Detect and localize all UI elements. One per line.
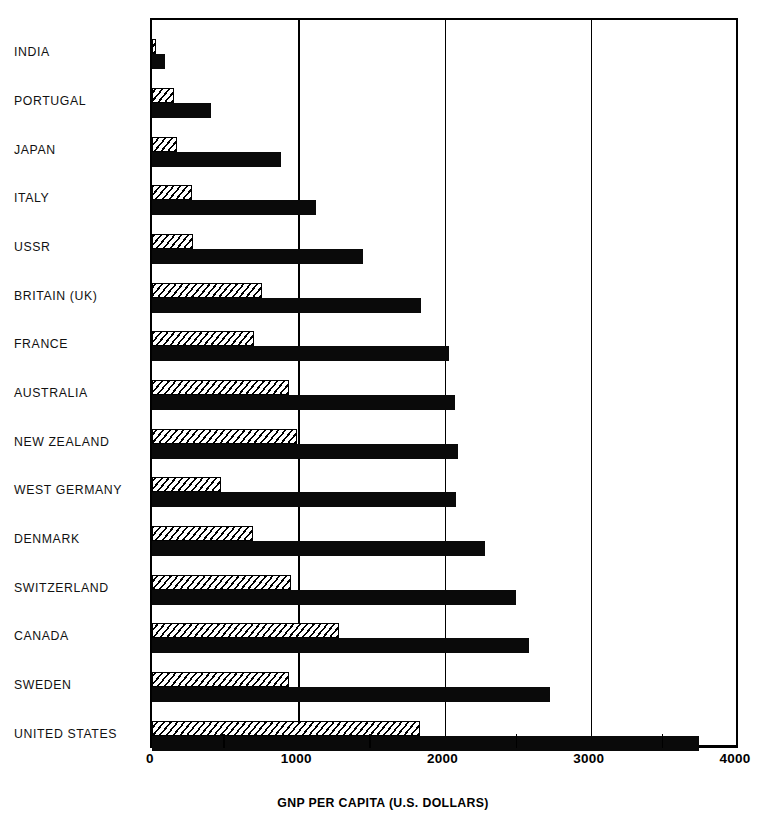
- bar-group: [152, 185, 736, 217]
- category-label: DENMARK: [14, 533, 146, 546]
- x-tick-label-4000: 4000: [719, 751, 750, 766]
- bar-group: [152, 429, 736, 461]
- bar-group: [152, 672, 736, 704]
- category-label: ITALY: [14, 192, 146, 205]
- bar-hatched: [152, 380, 289, 395]
- bar-solid: [152, 638, 529, 653]
- bar-hatched: [152, 331, 254, 346]
- bar-hatched: [152, 672, 289, 687]
- bar-hatched: [152, 39, 156, 54]
- bar-solid: [152, 152, 281, 167]
- minor-tick-2500: [516, 734, 518, 748]
- bar-hatched: [152, 526, 253, 541]
- bar-solid: [152, 103, 211, 118]
- x-tick-label-2000: 2000: [427, 751, 458, 766]
- bar-solid: [152, 395, 455, 410]
- bar-group: [152, 623, 736, 655]
- minor-tick-1500: [369, 734, 371, 748]
- category-label: JAPAN: [14, 144, 146, 157]
- category-label: UNITED STATES: [14, 728, 146, 741]
- bar-group: [152, 477, 736, 509]
- x-tick-label-1000: 1000: [281, 751, 312, 766]
- bar-hatched: [152, 283, 262, 298]
- x-tick-label-3000: 3000: [573, 751, 604, 766]
- bar-solid: [152, 346, 449, 361]
- bar-hatched: [152, 429, 297, 444]
- category-label: FRANCE: [14, 338, 146, 351]
- bar-group: [152, 39, 736, 71]
- x-axis-title: GNP PER CAPITA (U.S. DOLLARS): [0, 796, 766, 810]
- minor-tick-3500: [662, 734, 664, 748]
- bar-group: [152, 526, 736, 558]
- minor-tick-500: [223, 734, 225, 748]
- bar-solid: [152, 541, 485, 556]
- category-label-column: INDIAPORTUGALJAPANITALYUSSRBRITAIN (UK)F…: [14, 18, 144, 748]
- bar-solid: [152, 298, 421, 313]
- category-label: INDIA: [14, 46, 146, 59]
- category-label: PORTUGAL: [14, 95, 146, 108]
- category-label: WEST GERMANY: [14, 484, 146, 497]
- bar-solid: [152, 54, 165, 69]
- bar-solid: [152, 200, 316, 215]
- bar-group: [152, 137, 736, 169]
- bar-group: [152, 283, 736, 315]
- category-label: BRITAIN (UK): [14, 290, 146, 303]
- bar-solid: [152, 492, 456, 507]
- bar-hatched: [152, 575, 291, 590]
- category-label: USSR: [14, 241, 146, 254]
- category-label: SWITZERLAND: [14, 582, 146, 595]
- bar-solid: [152, 687, 550, 702]
- bar-hatched: [152, 185, 192, 200]
- category-label: AUSTRALIA: [14, 387, 146, 400]
- bar-group: [152, 88, 736, 120]
- bar-hatched: [152, 88, 174, 103]
- plot-inner: [152, 20, 736, 745]
- category-label: CANADA: [14, 630, 146, 643]
- bar-hatched: [152, 137, 177, 152]
- bar-hatched: [152, 721, 420, 736]
- gnp-per-capita-bar-chart: INDIAPORTUGALJAPANITALYUSSRBRITAIN (UK)F…: [0, 0, 766, 836]
- bar-group: [152, 380, 736, 412]
- bar-solid: [152, 444, 458, 459]
- bar-group: [152, 331, 736, 363]
- category-label: SWEDEN: [14, 679, 146, 692]
- bar-hatched: [152, 234, 193, 249]
- bar-solid: [152, 590, 516, 605]
- category-label: NEW ZEALAND: [14, 436, 146, 449]
- plot-area: [150, 18, 738, 748]
- bar-group: [152, 575, 736, 607]
- bar-solid: [152, 249, 363, 264]
- bar-hatched: [152, 623, 339, 638]
- bar-group: [152, 234, 736, 266]
- x-tick-label-0: 0: [146, 751, 154, 766]
- x-axis: 01000200030004000: [150, 748, 738, 788]
- bar-hatched: [152, 477, 221, 492]
